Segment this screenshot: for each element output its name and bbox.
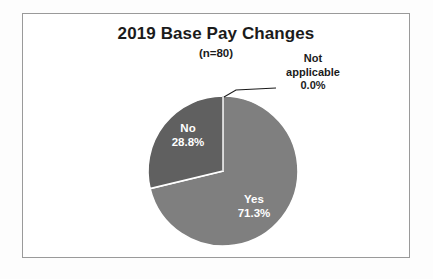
scanned-page: 2019 Base Pay Changes (n=80) Not applica… [0,0,433,279]
chart-frame: 2019 Base Pay Changes (n=80) Not applica… [22,13,410,258]
slice-label-not-applicable: Not applicable 0.0% [259,52,367,93]
slice-label-no: No 28.8% [151,121,225,149]
slice-label-no-name: No [151,121,225,135]
slice-label-yes: Yes 71.3% [217,192,291,220]
slice-value-yes: 71.3% [217,206,291,220]
slice-value-not-applicable: 0.0% [259,79,367,93]
slice-label-not-applicable-line1: Not [259,52,367,66]
slice-label-yes-name: Yes [217,192,291,206]
slice-label-not-applicable-line2: applicable [259,66,367,80]
slice-value-no: 28.8% [151,135,225,149]
